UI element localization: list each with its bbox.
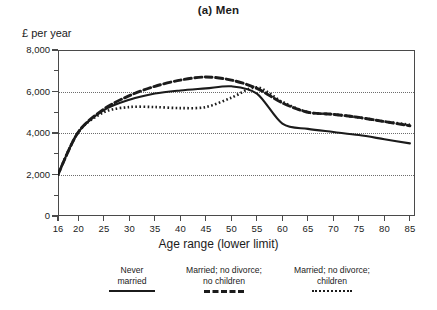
y-tick-label: 4,000 <box>4 127 50 138</box>
legend-swatch-dashed <box>204 290 244 297</box>
x-tick-label: 60 <box>269 223 295 234</box>
x-tick <box>129 216 130 221</box>
x-tick <box>205 216 206 221</box>
plot-area <box>58 50 415 216</box>
x-axis-ticks <box>58 216 415 222</box>
chart-figure: (a) Men £ per year 8,0006,0004,0002,0000… <box>0 0 437 310</box>
x-tick-label: 70 <box>320 223 346 234</box>
x-tick <box>256 216 257 221</box>
legend-label-line1: Never <box>101 265 163 276</box>
legend-item: Married; no divorce;no children <box>170 265 278 297</box>
x-tick <box>231 216 232 221</box>
series-line <box>58 87 410 174</box>
x-tick <box>358 216 359 221</box>
x-axis-label: Age range (lower limit) <box>0 237 437 251</box>
y-tick-label: 6,000 <box>4 86 50 97</box>
x-tick-label: 35 <box>142 223 168 234</box>
x-tick-label: 55 <box>244 223 270 234</box>
x-tick-label: 85 <box>397 223 423 234</box>
x-tick-label: 45 <box>193 223 219 234</box>
legend-item: Married; no divorce;children <box>278 265 386 296</box>
x-tick-label: 30 <box>116 223 142 234</box>
y-tick-label: 0 <box>4 210 50 221</box>
x-axis-tick-labels: 162025303540455055606570758085 <box>58 223 415 237</box>
x-tick <box>307 216 308 221</box>
series-lines <box>58 50 415 216</box>
x-tick-label: 65 <box>295 223 321 234</box>
chart-title: (a) Men <box>0 4 437 16</box>
legend-item: Nevermarried <box>101 265 163 296</box>
series-line <box>58 86 410 174</box>
legend-swatch-dotted <box>312 290 352 296</box>
x-tick <box>103 216 104 221</box>
legend-swatch-solid <box>109 290 155 296</box>
x-tick <box>282 216 283 221</box>
x-tick <box>78 216 79 221</box>
x-tick <box>384 216 385 221</box>
legend-label-line1: Married; no divorce; <box>278 265 386 276</box>
series-line <box>58 77 410 175</box>
x-tick-label: 25 <box>91 223 117 234</box>
legend-label-line2: no children <box>170 276 278 287</box>
x-tick-label: 20 <box>65 223 91 234</box>
y-axis-tick-labels: 8,0006,0004,0002,0000 <box>0 50 50 216</box>
y-tick-label: 2,000 <box>4 169 50 180</box>
x-tick <box>333 216 334 221</box>
y-tick-label: 8,000 <box>4 44 50 55</box>
x-tick-label: 40 <box>167 223 193 234</box>
x-tick <box>154 216 155 221</box>
x-tick <box>57 216 58 221</box>
x-tick <box>180 216 181 221</box>
x-tick-label: 75 <box>346 223 372 234</box>
x-tick-label: 50 <box>218 223 244 234</box>
x-tick-label: 80 <box>371 223 397 234</box>
x-tick <box>409 216 410 221</box>
chart-legend: NevermarriedMarried; no divorce;no child… <box>0 265 437 307</box>
y-axis-label: £ per year <box>22 27 72 39</box>
legend-label-line2: children <box>278 276 386 287</box>
legend-label-line1: Married; no divorce; <box>170 265 278 276</box>
legend-label-line2: married <box>101 276 163 287</box>
